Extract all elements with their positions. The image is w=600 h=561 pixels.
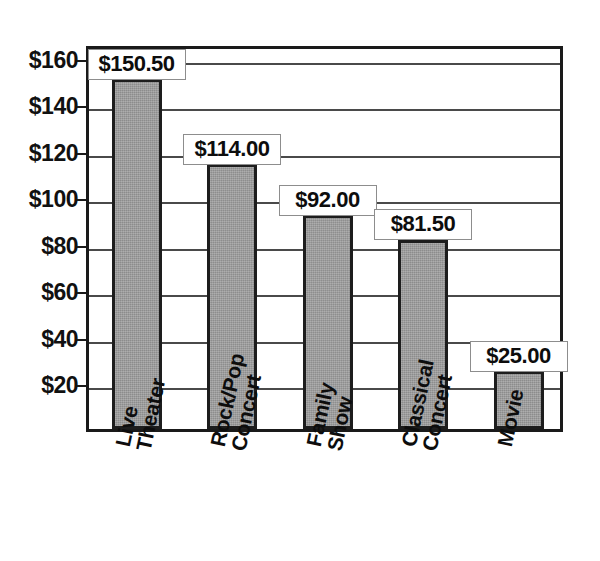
y-axis-tick-label: $40 [8,325,78,352]
y-axis-tick-label: $160 [8,46,78,73]
y-axis-tick-label: $120 [8,139,78,166]
data-label: $92.00 [279,185,377,216]
y-axis-tick-mark [77,199,86,201]
y-axis-tick-mark [77,60,86,62]
y-axis-tick-label: $20 [8,372,78,399]
data-label: $114.00 [183,134,281,165]
y-axis-tick-mark [77,339,86,341]
y-axis-tick-label: $60 [8,279,78,306]
bar-chart: $20$40$60$80$100$120$140$160 $150.50$114… [0,0,600,561]
data-label: $81.50 [374,209,472,240]
y-axis-tick-mark [77,385,86,387]
y-axis-tick-label: $80 [8,232,78,259]
y-axis-tick-mark [77,106,86,108]
y-axis-tick-label: $100 [8,186,78,213]
y-axis-tick-label: $140 [8,93,78,120]
data-label: $25.00 [470,341,568,372]
y-axis-tick-mark [77,292,86,294]
y-axis-tick-mark [77,153,86,155]
data-label: $150.50 [88,49,186,80]
plot-area [86,46,563,432]
y-axis-tick-mark [77,246,86,248]
